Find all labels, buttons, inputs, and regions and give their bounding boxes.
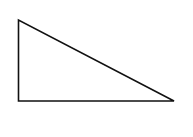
right-triangle-shape (19, 20, 175, 101)
triangle-diagram (0, 0, 193, 137)
